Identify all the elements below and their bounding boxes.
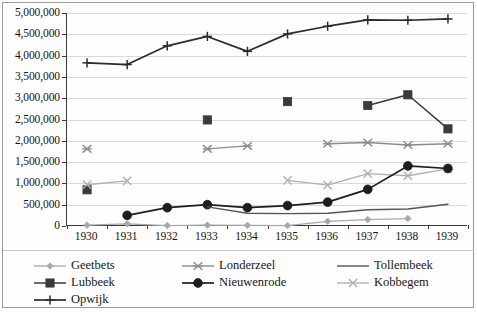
legend-label: Kobbegem <box>374 276 429 289</box>
legend-label: Nieuwenrode <box>219 276 286 289</box>
y-tick-label: 4,000,000 <box>0 50 60 62</box>
x-tick-label: 1937 <box>345 231 389 243</box>
legend-swatch-tollembeek-icon <box>336 259 370 273</box>
legend-label: Tollembeek <box>374 259 433 272</box>
x-tick-label: 1939 <box>425 231 469 243</box>
legend-item-tollembeek[interactable]: Tollembeek <box>336 259 474 273</box>
y-tick-label: 500,000 <box>0 199 60 211</box>
x-tick-label: 1935 <box>265 231 309 243</box>
legend-label: Opwijk <box>71 293 109 306</box>
legend-label: Lubbeek <box>71 276 115 289</box>
series-lubbeek <box>83 91 452 194</box>
legend-swatch-kobbegem-icon <box>336 276 370 290</box>
legend-label: Geetbets <box>71 259 115 272</box>
legend-item-lubbeek[interactable]: Lubbeek <box>33 276 181 290</box>
series-nieuwenrode <box>123 162 453 220</box>
x-tick-label: 1934 <box>224 231 268 243</box>
y-tick-label: 2,000,000 <box>0 135 60 147</box>
legend-swatch-geetbets-icon <box>33 259 67 273</box>
series-kobbegem <box>83 165 452 189</box>
data-series-layer <box>67 13 468 226</box>
legend-item-opwijk[interactable]: Opwijk <box>33 293 181 307</box>
y-tick-label: 5,000,000 <box>0 7 60 19</box>
chart-figure: 0500,0001,000,0001,500,0002,000,0002,500… <box>0 0 477 312</box>
legend-item-nieuwenrode[interactable]: Nieuwenrode <box>181 276 336 290</box>
x-tick-label: 1931 <box>104 231 148 243</box>
y-tick-label: 3,000,000 <box>0 92 60 104</box>
series-londerzeel <box>82 139 452 153</box>
x-tick-label: 1933 <box>184 231 228 243</box>
legend-swatch-lubbeek-icon <box>33 276 67 290</box>
legend-item-geetbets[interactable]: Geetbets <box>33 259 181 273</box>
y-tick-label: 1,000,000 <box>0 177 60 189</box>
x-tick-label: 1932 <box>144 231 188 243</box>
chart-legend: GeetbetsLonderzeelTollembeekLubbeekNieuw… <box>3 250 474 308</box>
x-tick-label: 1936 <box>305 231 349 243</box>
y-tick-label: 4,500,000 <box>0 28 60 40</box>
legend-label: Londerzeel <box>219 259 275 272</box>
y-tick-label: 0 <box>0 220 60 232</box>
x-tick-label: 1930 <box>64 231 108 243</box>
series-geetbets <box>84 215 411 229</box>
x-tick-label: 1938 <box>385 231 429 243</box>
y-tick-label: 1,500,000 <box>0 156 60 168</box>
y-tick-label: 2,500,000 <box>0 114 60 126</box>
plot-area <box>66 13 467 226</box>
y-tick-mark <box>62 226 66 227</box>
plot-wrapper: 0500,0001,000,0001,500,0002,000,0002,500… <box>0 0 477 250</box>
legend-item-kobbegem[interactable]: Kobbegem <box>336 276 474 290</box>
legend-swatch-nieuwenrode-icon <box>181 276 215 290</box>
legend-swatch-londerzeel-icon <box>181 259 215 273</box>
legend-swatch-opwijk-icon <box>33 293 67 307</box>
series-opwijk <box>82 14 452 69</box>
y-tick-label: 3,500,000 <box>0 71 60 83</box>
legend-grid: GeetbetsLonderzeelTollembeekLubbeekNieuw… <box>33 257 474 308</box>
legend-item-londerzeel[interactable]: Londerzeel <box>181 259 336 273</box>
x-tick-mark <box>468 225 469 229</box>
